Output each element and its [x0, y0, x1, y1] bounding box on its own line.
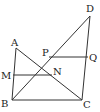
label-a: A [10, 37, 19, 48]
label-q: Q [89, 52, 97, 63]
geometry-figure: A B C D M N P Q [0, 0, 100, 112]
label-d: D [86, 3, 94, 14]
label-c: C [83, 99, 91, 110]
label-p: P [42, 47, 49, 58]
segment-ab [12, 48, 16, 100]
label-b: B [1, 98, 8, 109]
label-n: N [53, 66, 62, 77]
segment-ac [16, 48, 82, 100]
label-m: M [1, 70, 11, 81]
diagram-canvas: A B C D M N P Q [0, 0, 100, 112]
segment-bd [12, 16, 90, 100]
